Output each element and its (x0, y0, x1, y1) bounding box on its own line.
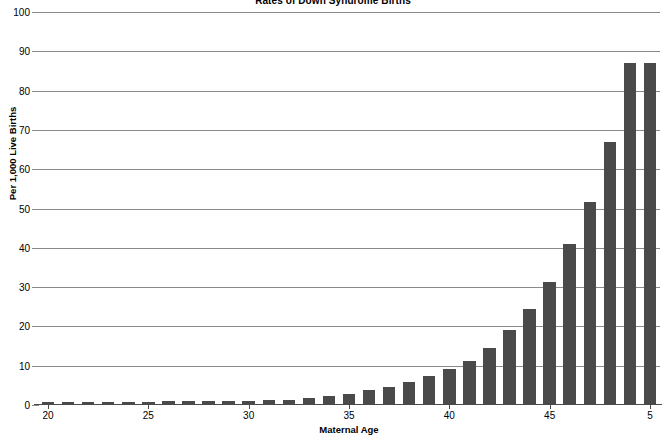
gridline (38, 130, 660, 131)
y-tick-mark (32, 209, 39, 210)
y-tick-mark (32, 12, 39, 13)
gridline (38, 91, 660, 92)
x-tick-label: 40 (444, 410, 455, 421)
bar (483, 348, 495, 405)
x-axis-label: Maternal Age (38, 424, 660, 435)
x-tick-mark (650, 405, 651, 409)
y-tick-mark (32, 366, 39, 367)
bar (403, 382, 415, 405)
x-tick-mark (449, 405, 450, 409)
bar (644, 63, 656, 405)
y-tick-label: 10 (0, 360, 30, 371)
y-tick-label: 90 (0, 46, 30, 57)
gridline (38, 209, 660, 210)
x-tick-mark (349, 405, 350, 409)
y-tick-mark (32, 51, 39, 52)
chart-title: Rates of Down Syndrome Births (0, 0, 666, 6)
y-tick-label: 40 (0, 242, 30, 253)
bar (604, 142, 616, 405)
bar (543, 282, 555, 405)
y-tick-label: 100 (0, 7, 30, 18)
plot-area: 0102030405060708090100 2025303540455 (38, 12, 660, 405)
x-tick-label: 35 (343, 410, 354, 421)
y-tick-label: 30 (0, 282, 30, 293)
y-tick-mark (32, 130, 39, 131)
y-tick-mark (32, 405, 39, 406)
y-tick-mark (32, 248, 39, 249)
y-tick-label: 60 (0, 164, 30, 175)
y-tick-label: 20 (0, 321, 30, 332)
gridline (38, 169, 660, 170)
y-axis-label: Per 1,000 Live Births (7, 94, 18, 214)
y-tick-mark (32, 169, 39, 170)
y-tick-label: 50 (0, 203, 30, 214)
x-tick-mark (249, 405, 250, 409)
x-axis-line (34, 404, 662, 405)
x-tick-label: 45 (544, 410, 555, 421)
y-tick-mark (32, 91, 39, 92)
x-tick-mark (48, 405, 49, 409)
bar (503, 330, 515, 405)
bar (584, 202, 596, 405)
y-tick-label: 80 (0, 85, 30, 96)
gridline (38, 51, 660, 52)
bar (563, 244, 575, 405)
y-tick-label: 0 (0, 400, 30, 411)
bar (523, 309, 535, 405)
x-tick-label: 20 (42, 410, 53, 421)
chart-container: Rates of Down Syndrome Births Per 1,000 … (0, 0, 666, 444)
bar (624, 63, 636, 405)
bar (443, 369, 455, 405)
x-tick-label: 25 (143, 410, 154, 421)
bar (383, 387, 395, 405)
x-tick-mark (148, 405, 149, 409)
x-tick-label: 5 (647, 410, 653, 421)
y-tick-mark (32, 287, 39, 288)
x-tick-mark (550, 405, 551, 409)
x-tick-label: 30 (243, 410, 254, 421)
gridline (38, 12, 660, 13)
y-tick-mark (32, 326, 39, 327)
bar (423, 376, 435, 405)
y-tick-label: 70 (0, 124, 30, 135)
bar (463, 361, 475, 405)
